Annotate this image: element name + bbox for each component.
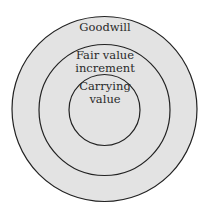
label-goodwill: Goodwill (60, 21, 150, 34)
label-carrying-value: Carrying value (60, 80, 150, 106)
label-fair-value-increment: Fair value increment (55, 49, 155, 75)
label-value: value (60, 93, 150, 106)
label-increment: increment (55, 62, 155, 75)
